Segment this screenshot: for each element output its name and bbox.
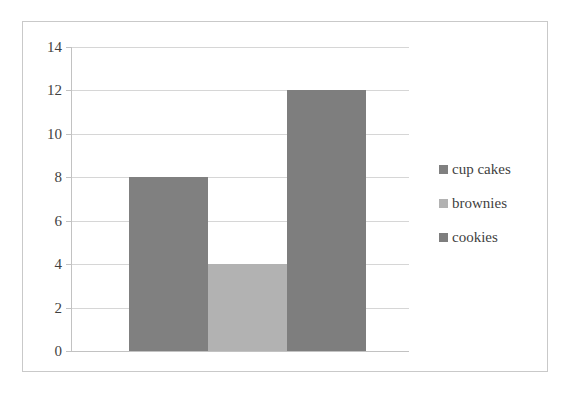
bar-cookies[interactable] [287,90,366,351]
y-axis-tick [66,351,71,352]
legend-item-brownies[interactable]: brownies [439,186,549,220]
bar-brownies[interactable] [208,264,287,351]
y-axis-tick-label: 12 [47,83,62,98]
legend-swatch-icon [439,165,448,174]
y-axis-tick [66,134,71,135]
gridline [71,351,409,352]
bar-cup-cakes[interactable] [129,177,208,351]
y-axis-tick-label: 0 [55,344,63,359]
y-axis-tick-label: 8 [55,170,63,185]
y-axis-tick [66,264,71,265]
chart-frame: 02468101214 cup cakesbrowniescookies [22,21,548,372]
legend-item-label: brownies [452,196,507,211]
chart-legend: cup cakesbrowniescookies [439,152,549,254]
y-axis-tick [66,90,71,91]
y-axis-tick [66,308,71,309]
legend-item-cookies[interactable]: cookies [439,220,549,254]
legend-swatch-icon [439,199,448,208]
legend-item-label: cup cakes [452,162,511,177]
y-axis-tick-label: 14 [47,40,62,55]
y-axis-line [71,47,72,351]
y-axis-tick [66,47,71,48]
y-axis-tick-label: 2 [55,300,63,315]
legend-item-label: cookies [452,230,498,245]
y-axis-tick-label: 6 [55,213,63,228]
legend-item-cup-cakes[interactable]: cup cakes [439,152,549,186]
y-axis-tick [66,177,71,178]
plot-area: 02468101214 [71,47,409,351]
y-axis-tick [66,221,71,222]
y-axis-tick-label: 10 [47,126,62,141]
y-axis-tick-label: 4 [55,257,63,272]
gridline [71,47,409,48]
legend-swatch-icon [439,233,448,242]
